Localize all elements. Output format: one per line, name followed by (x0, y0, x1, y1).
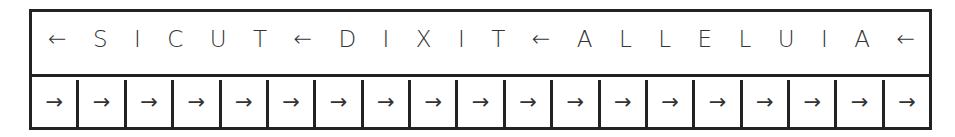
banner-letter: I (458, 25, 465, 53)
banner-letter: D (338, 25, 356, 53)
banner-letter: I (821, 25, 828, 53)
banner-letter: L (619, 25, 632, 53)
arrow-left-icon: ← (294, 25, 312, 53)
banner-letter: I (383, 25, 390, 53)
banner-letter: U (210, 25, 227, 53)
arrow-right-icon: → (269, 80, 316, 127)
text-banner: ← S I C U T ← D I X I T ← A L L E L U I … (32, 12, 929, 77)
arrow-right-icon: → (695, 80, 742, 127)
arrow-right-icon: → (743, 80, 790, 127)
arrow-right-icon: → (79, 80, 126, 127)
banner-letter: A (577, 25, 593, 53)
arrow-left-icon: ← (48, 25, 66, 53)
banner-letter: I (134, 25, 141, 53)
arrow-right-icon: → (32, 80, 79, 127)
banner-letter: A (854, 25, 870, 53)
arrow-right-icon: → (316, 80, 363, 127)
grid-frame: ← S I C U T ← D I X I T ← A L L E L U I … (29, 9, 932, 130)
arrow-right-icon: → (364, 80, 411, 127)
arrow-cell-row: → → → → → → → → → → → → → → → → → → → (32, 80, 929, 127)
arrow-left-icon: ← (896, 25, 914, 53)
arrow-right-icon: → (506, 80, 553, 127)
arrow-right-icon: → (790, 80, 837, 127)
arrow-right-icon: → (222, 80, 269, 127)
banner-letter: L (738, 25, 751, 53)
arrow-right-icon: → (648, 80, 695, 127)
banner-letter: S (93, 25, 108, 53)
arrow-right-icon: → (885, 80, 929, 127)
banner-letter: E (697, 25, 712, 53)
banner-letter: T (253, 25, 267, 53)
banner-letter: C (167, 25, 183, 53)
arrow-right-icon: → (837, 80, 884, 127)
arrow-right-icon: → (601, 80, 648, 127)
arrow-right-icon: → (127, 80, 174, 127)
banner-letter: U (778, 25, 795, 53)
banner-letter: X (416, 25, 432, 53)
arrow-right-icon: → (553, 80, 600, 127)
arrow-right-icon: → (174, 80, 221, 127)
arrow-right-icon: → (411, 80, 458, 127)
banner-letter: T (491, 25, 505, 53)
arrow-right-icon: → (458, 80, 505, 127)
banner-letter: L (658, 25, 671, 53)
arrow-left-icon: ← (532, 25, 550, 53)
